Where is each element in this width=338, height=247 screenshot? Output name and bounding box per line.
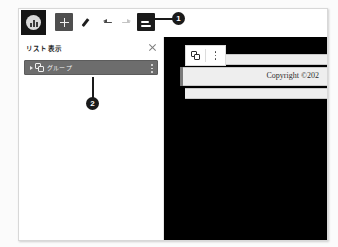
- list-view-panel: リスト表示 グループ: [19, 37, 164, 240]
- add-button[interactable]: [55, 13, 73, 31]
- close-icon[interactable]: [148, 43, 157, 52]
- more-vertical-icon: [215, 51, 217, 60]
- list-item-label: グループ: [47, 63, 72, 72]
- list-view-toggle-button[interactable]: [137, 13, 155, 31]
- undo-button[interactable]: [99, 13, 117, 31]
- copyright-text: Copyright ©202: [266, 71, 319, 80]
- undo-icon: [102, 17, 114, 28]
- preview-canvas[interactable]: Copyright ©202: [164, 37, 327, 240]
- callout-leader-line-2: [92, 77, 94, 99]
- callout-badge-2: 2: [86, 97, 99, 110]
- selection-marker: [180, 67, 183, 86]
- application-window: リスト表示 グループ Copyright ©202: [18, 8, 328, 241]
- app-logo-glyph: [26, 15, 41, 30]
- edit-button[interactable]: [79, 13, 97, 31]
- block-options-button[interactable]: [206, 46, 225, 65]
- plus-icon: [60, 18, 69, 27]
- app-logo-icon: [21, 10, 46, 35]
- callout-leader-line-1: [137, 18, 173, 20]
- redo-icon: [120, 17, 132, 28]
- workspace: リスト表示 グループ Copyright ©202: [19, 37, 327, 240]
- page-band-bottom: [185, 88, 327, 99]
- redo-button: [117, 13, 135, 31]
- screenshot-root: リスト表示 グループ Copyright ©202: [0, 0, 338, 247]
- copy-group-button[interactable]: [186, 46, 205, 65]
- callout-badge-1: 1: [172, 12, 185, 25]
- more-vertical-icon[interactable]: [151, 64, 153, 73]
- block-floating-toolbar: [185, 45, 226, 66]
- pencil-icon: [83, 17, 94, 28]
- group-icon: [35, 63, 44, 72]
- copy-group-icon: [191, 51, 200, 60]
- list-item[interactable]: グループ: [24, 60, 158, 75]
- chevron-right-icon[interactable]: [28, 66, 35, 70]
- list-panel-title: リスト表示: [26, 43, 62, 53]
- list-panel-header: リスト表示: [19, 37, 163, 58]
